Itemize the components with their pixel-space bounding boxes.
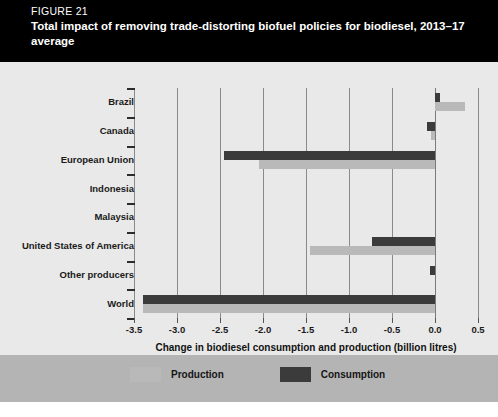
y-axis-label: Canada — [100, 125, 134, 136]
gridline — [306, 88, 307, 318]
x-axis-tick — [478, 318, 479, 323]
plot-area — [134, 88, 478, 318]
legend-swatch-consumption — [280, 367, 311, 382]
legend-label-production: Production — [171, 369, 224, 380]
bar-consumption — [224, 151, 435, 160]
chart-legend: Production Consumption — [0, 355, 498, 402]
gridline — [349, 88, 350, 318]
bar-consumption — [427, 122, 435, 131]
x-axis-tick — [435, 318, 436, 323]
x-axis-tick — [134, 318, 135, 323]
legend-swatch-production — [130, 367, 161, 382]
y-axis-tick — [127, 261, 135, 263]
y-axis-tick — [127, 289, 135, 291]
figure-header: FIGURE 21 Total impact of removing trade… — [0, 0, 498, 62]
y-axis-label: Malaysia — [94, 211, 134, 222]
gridline — [435, 88, 436, 318]
figure-title: Total impact of removing trade-distortin… — [31, 19, 471, 49]
bar-consumption — [372, 237, 435, 246]
y-axis-tick — [127, 117, 135, 119]
gridline — [478, 88, 479, 318]
bar-production — [310, 246, 435, 255]
figure-number: FIGURE 21 — [31, 5, 498, 18]
x-axis-tick — [306, 318, 307, 323]
x-axis-tick-label: -2.5 — [200, 324, 240, 335]
gridline — [263, 88, 264, 318]
x-axis-tick-label: -3.0 — [157, 324, 197, 335]
x-axis-tick — [349, 318, 350, 323]
bar-production — [435, 102, 465, 111]
x-axis-title: Change in biodiesel consumption and prod… — [134, 342, 478, 353]
x-axis-tick — [177, 318, 178, 323]
x-axis-tick-label: -1.0 — [329, 324, 369, 335]
bar-consumption — [143, 295, 435, 304]
x-axis-tick-label: -0.5 — [372, 324, 412, 335]
figure-container: FIGURE 21 Total impact of removing trade… — [0, 0, 498, 417]
x-axis-tick-label: -3.5 — [114, 324, 154, 335]
x-axis-tick — [220, 318, 221, 323]
x-axis-tick-label: -1.5 — [286, 324, 326, 335]
y-axis-label: European Union — [61, 154, 134, 165]
x-axis-tick-label: 0.0 — [415, 324, 455, 335]
legend-label-consumption: Consumption — [321, 369, 385, 380]
x-axis-tick — [263, 318, 264, 323]
y-axis-tick — [127, 146, 135, 148]
x-axis-tick-label: -2.0 — [243, 324, 283, 335]
y-axis-tick — [127, 203, 135, 205]
y-axis-label: Indonesia — [90, 183, 134, 194]
bar-consumption — [435, 93, 440, 102]
x-axis-tick — [392, 318, 393, 323]
x-axis-tick-label: 0.5 — [458, 324, 498, 335]
y-axis-tick — [127, 88, 135, 90]
bar-consumption — [430, 266, 435, 275]
y-axis-tick — [127, 232, 135, 234]
gridline — [392, 88, 393, 318]
y-axis-label: World — [107, 298, 134, 309]
gridline — [220, 88, 221, 318]
footer-strip — [0, 402, 498, 417]
gridline — [177, 88, 178, 318]
y-axis-label: Brazil — [108, 96, 134, 107]
y-axis-tick — [127, 174, 135, 176]
bar-production — [431, 131, 435, 140]
y-axis-label: United States of America — [22, 240, 134, 251]
y-axis-label: Other producers — [60, 269, 134, 280]
bar-production — [143, 304, 435, 313]
bar-production — [259, 160, 435, 169]
chart-panel: BrazilCanadaEuropean UnionIndonesiaMalay… — [0, 62, 498, 355]
